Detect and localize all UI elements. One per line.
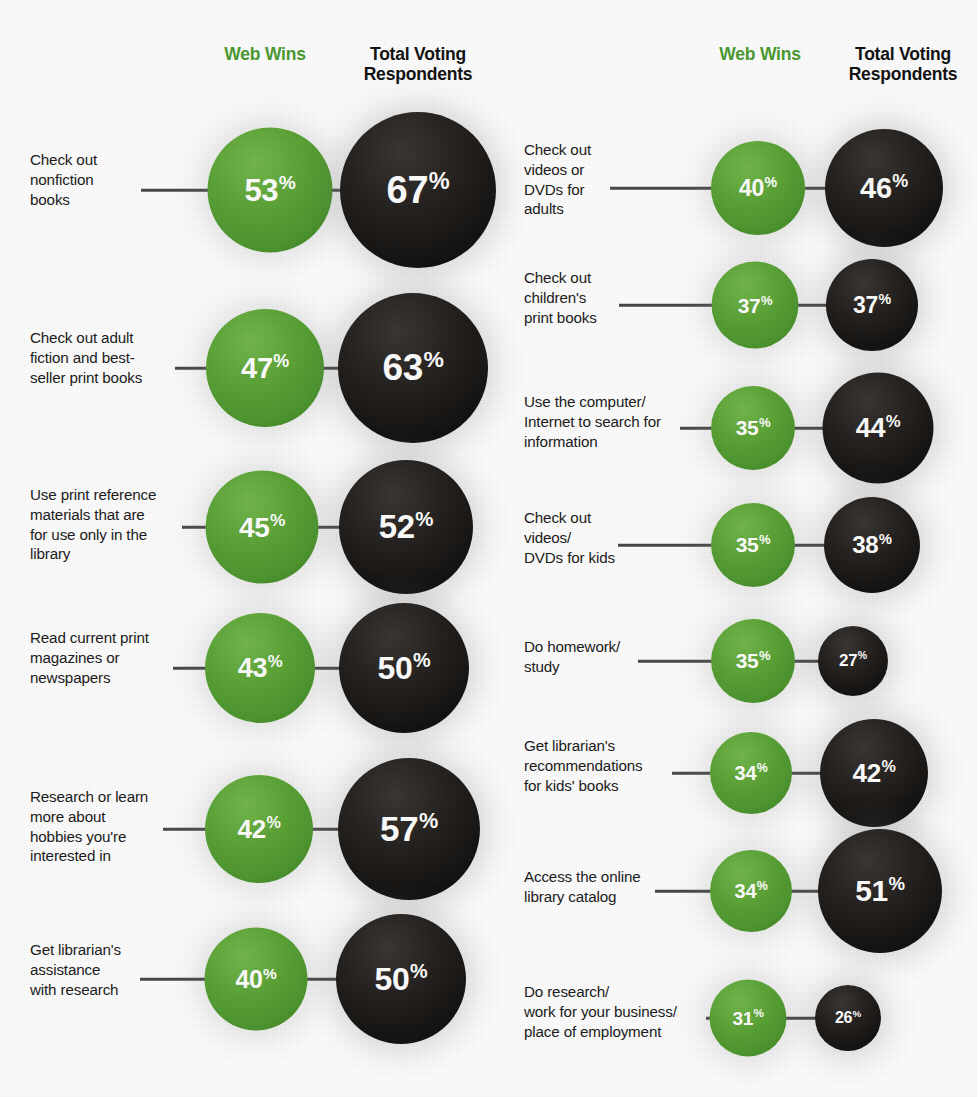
- row-label: Check out adult fiction and best- seller…: [30, 328, 235, 387]
- bubble-value: 63%: [382, 347, 443, 389]
- bubble-value: 35%: [736, 416, 771, 440]
- percent-sign: %: [761, 292, 772, 307]
- percent-sign: %: [757, 761, 768, 775]
- percent-sign: %: [892, 171, 908, 191]
- total-voting-bubble: 52%: [339, 460, 473, 594]
- label-connector-line: [638, 660, 713, 663]
- percent-sign: %: [263, 964, 276, 981]
- web-wins-bubble: 35%: [711, 619, 795, 703]
- bubble-value: 42%: [238, 814, 281, 845]
- total-voting-bubble: 67%: [340, 112, 496, 268]
- web-wins-bubble: 42%: [205, 775, 313, 883]
- percent-sign: %: [279, 172, 296, 193]
- total-voting-bubble: 37%: [826, 259, 918, 351]
- total-voting-bubble: 27%: [818, 626, 888, 696]
- total-voting-bubble: 57%: [338, 758, 480, 900]
- web-wins-bubble: 34%: [710, 850, 792, 932]
- label-connector-line: [680, 427, 713, 430]
- bubble-value: 53%: [244, 172, 295, 208]
- percent-sign: %: [266, 813, 280, 831]
- bubble-connector-line: [304, 978, 341, 981]
- percent-sign: %: [413, 649, 430, 671]
- bubble-connector-line: [795, 304, 831, 307]
- right-column-headers: Web Wins Total Voting Respondents: [500, 0, 977, 120]
- row-label: Do research/ work for your business/ pla…: [524, 982, 729, 1041]
- web-wins-bubble: 40%: [711, 141, 805, 235]
- percent-sign: %: [765, 174, 777, 190]
- label-connector-line: [655, 890, 713, 893]
- total-voting-bubble: 50%: [336, 914, 466, 1044]
- bubble-value: 51%: [855, 874, 905, 908]
- web-wins-bubble: 43%: [205, 613, 315, 723]
- header-web-wins-left: Web Wins: [195, 44, 335, 64]
- percent-sign: %: [423, 346, 443, 372]
- label-connector-line: [141, 189, 211, 192]
- bubble-value: 26%: [835, 1009, 861, 1027]
- percent-sign: %: [879, 291, 891, 307]
- bubble-value: 40%: [235, 965, 276, 994]
- row-label: Check out videos/ DVDs for kids: [524, 508, 729, 567]
- bubble-value: 45%: [239, 511, 285, 543]
- total-voting-bubble: 42%: [820, 719, 928, 827]
- web-wins-bubble: 47%: [206, 309, 324, 427]
- percent-sign: %: [886, 412, 901, 431]
- bubble-value: 37%: [738, 293, 773, 317]
- percent-sign: %: [757, 879, 768, 893]
- row-label: Use the computer/ Internet to search for…: [524, 392, 729, 451]
- header-total-voting-left: Total Voting Respondents: [338, 44, 498, 85]
- bubble-value: 34%: [735, 762, 768, 785]
- total-voting-bubble: 38%: [824, 497, 920, 593]
- total-voting-bubble: 26%: [815, 985, 881, 1051]
- percent-sign: %: [270, 510, 285, 530]
- web-wins-bubble: 34%: [710, 732, 792, 814]
- percent-sign: %: [419, 808, 438, 833]
- percent-sign: %: [415, 507, 433, 530]
- label-connector-line: [619, 304, 715, 307]
- total-voting-bubble: 63%: [338, 293, 488, 443]
- percent-sign: %: [759, 415, 770, 430]
- percent-sign: %: [853, 1008, 862, 1019]
- web-wins-bubble: 53%: [208, 128, 333, 253]
- row-label: Get librarian's recommendations for kids…: [524, 736, 729, 795]
- bubble-value: 47%: [241, 352, 289, 385]
- label-connector-line: [610, 187, 715, 190]
- bubble-value: 37%: [853, 292, 891, 319]
- total-voting-bubble: 50%: [339, 603, 469, 733]
- percent-sign: %: [753, 1006, 763, 1019]
- bubble-value: 52%: [379, 508, 433, 546]
- header-total-voting-right: Total Voting Respondents: [828, 44, 978, 85]
- bubble-value: 42%: [853, 758, 896, 789]
- row-label: Use print reference materials that are f…: [30, 485, 235, 564]
- bubble-value: 38%: [852, 531, 892, 559]
- percent-sign: %: [268, 652, 283, 671]
- bubble-value: 57%: [380, 809, 438, 849]
- bubble-connector-line: [791, 544, 828, 547]
- label-connector-line: [140, 978, 210, 981]
- bubble-value: 67%: [387, 169, 450, 212]
- row-label: Do homework/ study: [524, 637, 729, 677]
- percent-sign: %: [410, 960, 427, 982]
- bubble-value: 35%: [736, 649, 771, 673]
- row-label: Access the online library catalog: [524, 867, 729, 907]
- label-connector-line: [618, 544, 713, 547]
- bubble-value: 40%: [739, 175, 777, 202]
- web-wins-bubble: 37%: [712, 262, 799, 349]
- web-wins-bubble: 45%: [206, 471, 319, 584]
- percent-sign: %: [759, 648, 770, 663]
- row-label: Check out nonfiction books: [30, 150, 235, 209]
- label-connector-line: [672, 772, 714, 775]
- percent-sign: %: [429, 168, 450, 194]
- total-voting-bubble: 44%: [823, 373, 934, 484]
- total-voting-bubble: 46%: [825, 129, 943, 247]
- bubble-value: 50%: [378, 650, 431, 687]
- web-wins-bubble: 40%: [205, 928, 308, 1031]
- web-wins-bubble: 31%: [710, 980, 787, 1057]
- bubble-value: 27%: [839, 651, 867, 671]
- bubble-value: 50%: [375, 961, 428, 998]
- bubble-connector-line: [783, 1017, 820, 1020]
- percent-sign: %: [273, 351, 289, 371]
- bubble-value: 31%: [732, 1007, 763, 1029]
- percent-sign: %: [889, 873, 905, 894]
- total-voting-bubble: 51%: [818, 829, 942, 953]
- bubble-value: 43%: [238, 653, 283, 684]
